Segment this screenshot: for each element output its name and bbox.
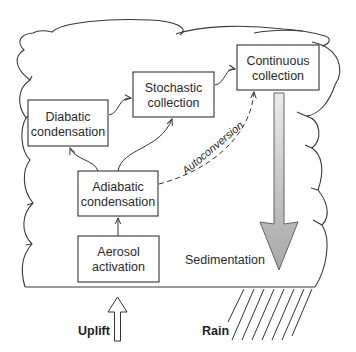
uplift-arrow [108,297,127,341]
box-label-line2: condensation [31,125,105,139]
box-stochastic-collection: Stochastic collection [133,72,214,117]
box-label-line2: collection [147,96,199,110]
box-diabatic-condensation: Diabatic condensation [28,100,108,146]
rain-lines [228,289,312,340]
sedimentation-arrow [260,93,298,270]
box-label-line2: condensation [81,195,155,209]
box-label-line1: Continuous [246,54,309,68]
arrow-diabatic-to-stochastic [109,98,131,115]
box-aerosol-activation: Aerosol activation [78,236,159,282]
box-label-line1: Aerosol [97,245,139,259]
arrow-adiabatic-to-diabatic [70,148,98,171]
box-adiabatic-condensation: Adiabatic condensation [78,171,158,216]
box-label-line2: collection [252,69,304,83]
rain-label: Rain [202,324,229,338]
box-label-line1: Adiabatic [92,180,143,194]
box-label-line1: Diabatic [45,110,90,124]
box-label-line1: Stochastic [145,81,203,95]
sedimentation-label: Sedimentation [185,253,265,267]
arrow-stochastic-to-continuous [215,69,235,85]
autoconversion-label: Autoconversion [179,119,246,178]
cloud-process-diagram: Autoconversion Diabatic condensation Sto… [0,0,356,352]
arrow-adiabatic-to-stochastic [118,119,172,171]
box-continuous-collection: Continuous collection [237,45,319,90]
uplift-label: Uplift [78,324,111,338]
box-label-line2: activation [92,260,145,274]
